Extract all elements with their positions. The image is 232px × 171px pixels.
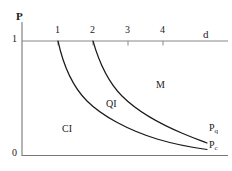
curve-label-pq-subscript: q	[215, 127, 219, 135]
region-label-qi: QI	[106, 99, 117, 109]
curve-label-pc-subscript: c	[215, 144, 218, 152]
plot-canvas	[0, 0, 232, 171]
region-label-ci: CI	[62, 124, 72, 134]
y-tick-label-1: 1	[12, 34, 17, 44]
curve-label-pq-base: P	[209, 122, 215, 133]
curve-label-pc-base: P	[209, 139, 215, 150]
x-tick-label-2: 2	[90, 25, 95, 35]
region-label-m: M	[156, 80, 165, 90]
x-tick-label-4: 4	[160, 25, 165, 35]
y-axis-label: P	[16, 11, 23, 22]
y-tick-label-0: 0	[12, 148, 17, 158]
x-axis-label: d	[203, 29, 209, 40]
x-tick-label-1: 1	[55, 25, 60, 35]
x-tick-label-3: 3	[125, 25, 130, 35]
curve-label-pq: Pq	[209, 123, 218, 133]
curve-label-pc: Pc	[209, 140, 218, 150]
curve-pc	[58, 41, 207, 150]
curve-pq	[93, 41, 207, 143]
phase-diagram-figure: P d 1 0 1 2 3 4 CI QI M Pq Pc	[0, 0, 232, 171]
